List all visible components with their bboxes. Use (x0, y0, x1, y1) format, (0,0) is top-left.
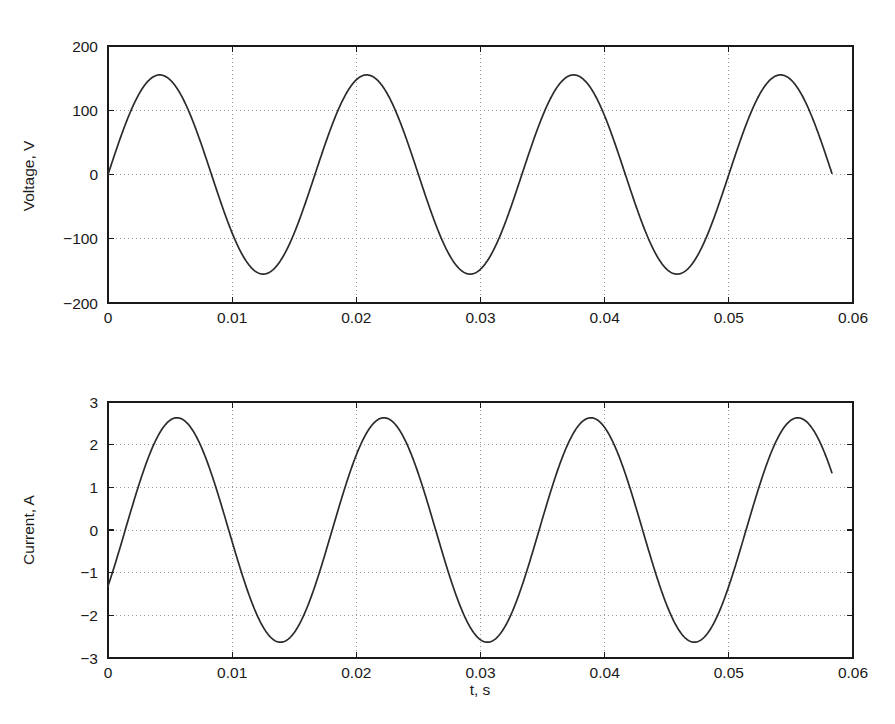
x-tick-label: 0.05 (714, 664, 744, 681)
x-tick-label: 0.06 (838, 309, 868, 326)
y-tick-label: 2 (89, 436, 98, 453)
x-tick-label: 0.02 (341, 309, 371, 326)
x-tick-label: 0.03 (465, 309, 495, 326)
y-tick-label: −2 (80, 607, 98, 624)
current-y-axis-title: Current, A (20, 494, 37, 564)
x-tick-label: 0.01 (217, 664, 247, 681)
y-tick-label: −100 (63, 230, 98, 247)
x-tick-label: 0.04 (590, 309, 621, 326)
voltage-plot-panel: 00.010.020.030.040.050.06 −200−100010020… (0, 0, 895, 360)
x-tick-label: 0.04 (590, 664, 621, 681)
y-tick-label: 3 (89, 394, 98, 411)
y-tick-label: 0 (89, 166, 98, 183)
y-tick-label: 100 (72, 102, 98, 119)
voltage-plot-svg: 00.010.020.030.040.050.06 −200−100010020… (0, 0, 895, 360)
voltage-y-axis-title: Voltage, V (20, 140, 37, 211)
y-tick-label: 200 (72, 38, 98, 55)
y-tick-label: −200 (63, 295, 98, 312)
current-plot-svg: 00.010.020.030.040.050.06 −3−2−10123 Cur… (0, 360, 895, 724)
x-tick-label: 0.02 (341, 664, 371, 681)
voltage-y-tick-labels: −200−1000100200 (63, 38, 98, 312)
voltage-gridlines (108, 46, 853, 303)
x-tick-label: 0.06 (838, 664, 868, 681)
y-tick-label: −1 (80, 564, 98, 581)
y-tick-label: 0 (89, 522, 98, 539)
x-tick-label: 0.01 (217, 309, 247, 326)
x-tick-label: 0 (104, 309, 113, 326)
x-tick-label: 0 (104, 664, 113, 681)
current-y-tick-labels: −3−2−10123 (80, 394, 98, 667)
current-gridlines (108, 402, 853, 658)
figure-voltage-current: 00.010.020.030.040.050.06 −200−100010020… (0, 0, 895, 724)
y-tick-label: 1 (89, 479, 98, 496)
current-plot-panel: 00.010.020.030.040.050.06 −3−2−10123 Cur… (0, 360, 895, 724)
current-x-tick-labels: 00.010.020.030.040.050.06 (104, 664, 868, 681)
x-tick-label: 0.05 (714, 309, 744, 326)
x-tick-label: 0.03 (465, 664, 495, 681)
current-x-axis-title: t, s (470, 681, 491, 698)
voltage-x-tick-labels: 00.010.020.030.040.050.06 (104, 309, 868, 326)
y-tick-label: −3 (80, 650, 98, 667)
